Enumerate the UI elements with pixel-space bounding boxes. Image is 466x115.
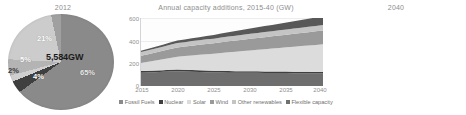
pie-2012-label-fossil-fuels: 65% <box>80 68 95 77</box>
legend-item-nuclear[interactable]: Nuclear <box>159 99 184 105</box>
area-chart-plot: 600 400 200 0 2015 2020 2025 2030 2035 2… <box>140 18 322 86</box>
xtick-2025: 2025 <box>207 87 220 93</box>
xtick-2035: 2035 <box>279 87 292 93</box>
legend-swatch-icon <box>187 100 191 104</box>
area-chart-title: Annual capacity additions, 2015-40 (GW) <box>126 4 326 11</box>
legend-label: Other renewables <box>238 99 282 105</box>
legend-label: Fossil Fuels <box>125 99 155 105</box>
left-pie-panel: 2012 21% 5% 2% 4% 65% 5,584GW <box>0 0 126 115</box>
area-series-fossil-fuels <box>141 71 323 86</box>
pie-2012-label-solar: 2% <box>8 66 19 75</box>
legend-item-fossil-fuels[interactable]: Fossil Fuels <box>119 99 154 105</box>
right-pie-title: 2040 <box>346 4 446 11</box>
legend-item-solar[interactable]: Solar <box>187 99 206 105</box>
legend-swatch-icon <box>159 100 163 104</box>
legend-label: Solar <box>193 99 206 105</box>
pie-2012-center-total: 5,584GW <box>46 52 83 62</box>
ytick-400: 400 <box>129 39 139 45</box>
legend-label: Wind <box>215 99 228 105</box>
pie-chart-2012: 21% 5% 2% 4% 65% 5,584GW <box>8 14 114 110</box>
legend-item-wind[interactable]: Wind <box>210 99 228 105</box>
xtick-2015: 2015 <box>135 87 148 93</box>
legend-label: Nuclear <box>164 99 183 105</box>
legend-swatch-icon <box>119 100 123 104</box>
legend-item-other-renewables[interactable]: Other renewables <box>232 99 282 105</box>
xtick-2040: 2040 <box>313 87 326 93</box>
xtick-2030: 2030 <box>243 87 256 93</box>
area-chart-legend: Fossil FuelsNuclearSolarWindOther renewa… <box>128 99 324 105</box>
legend-swatch-icon <box>286 100 290 104</box>
pie-2012-label-nuclear: 4% <box>33 72 44 81</box>
left-pie-title: 2012 <box>0 4 126 11</box>
legend-swatch-icon <box>232 100 236 104</box>
xtick-2020: 2020 <box>171 87 184 93</box>
ytick-600: 600 <box>129 16 139 22</box>
right-pie-panel: 2040 6% 14% 14% 36% 4% 26% 14,214GW <box>326 0 466 115</box>
pie-2012-label-wind: 5% <box>20 55 31 64</box>
legend-swatch-icon <box>210 100 214 104</box>
area-chart-panel: Annual capacity additions, 2015-40 (GW) … <box>126 0 326 115</box>
figure-root: 2012 21% 5% 2% 4% 65% 5,584GW Annual cap… <box>0 0 466 115</box>
ytick-200: 200 <box>129 61 139 67</box>
pie-2012-label-other-renewables: 21% <box>37 34 52 43</box>
area-chart-series <box>141 18 323 86</box>
